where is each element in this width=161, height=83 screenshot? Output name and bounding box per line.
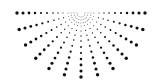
ray-dot xyxy=(98,12,99,13)
ray-dot xyxy=(65,21,66,22)
ray-dot xyxy=(80,40,82,42)
ray-dot xyxy=(69,32,70,33)
ray-dot xyxy=(15,11,18,14)
ray-dot xyxy=(80,64,83,67)
arc-dot xyxy=(83,22,84,23)
arc-dot xyxy=(71,15,72,16)
ray-dot xyxy=(108,62,111,65)
arc-dot xyxy=(79,16,80,17)
arc-dot xyxy=(78,19,79,20)
ray-dot xyxy=(80,46,82,48)
arc-dot xyxy=(77,13,78,14)
ray-dot xyxy=(60,24,61,25)
ray-dot xyxy=(40,35,43,38)
ray-dot xyxy=(130,40,133,43)
ray-dot xyxy=(141,28,144,31)
ray-dot xyxy=(47,67,50,70)
ray-dot xyxy=(68,25,69,26)
ray-dot xyxy=(23,26,26,29)
ray-dot xyxy=(52,40,54,42)
ray-dot xyxy=(87,24,88,25)
ray-dot xyxy=(60,32,62,34)
arc-dot xyxy=(86,17,87,18)
ray-dot xyxy=(125,38,128,41)
ray-dot xyxy=(90,51,92,53)
ray-dot xyxy=(137,11,140,14)
ray-dot xyxy=(120,12,122,14)
ray-dot xyxy=(80,30,81,31)
ray-dot xyxy=(94,36,96,38)
ray-dot xyxy=(112,44,115,47)
arc-dot xyxy=(90,17,91,18)
ray-dot xyxy=(66,36,68,38)
ray-dot xyxy=(92,19,93,20)
arc-dot xyxy=(85,18,86,19)
ray-dot xyxy=(126,12,129,15)
ray-dot xyxy=(35,38,38,41)
ray-dot xyxy=(115,32,117,34)
ray-dot xyxy=(132,12,135,15)
ray-dot xyxy=(84,25,85,26)
ray-dot xyxy=(69,19,70,20)
ray-dot xyxy=(68,16,69,17)
ray-dot xyxy=(94,67,97,70)
ray-dot xyxy=(143,11,146,14)
arc-dot xyxy=(76,18,77,19)
ray-dot xyxy=(120,35,123,38)
ray-dot xyxy=(94,13,95,14)
ray-dot xyxy=(114,12,116,14)
ray-dot xyxy=(74,24,75,25)
ray-dot xyxy=(71,22,72,23)
arc-dot xyxy=(83,16,84,17)
ray-dot xyxy=(92,56,95,59)
ray-dot xyxy=(109,29,111,31)
ray-dot xyxy=(38,52,41,55)
ray-dot xyxy=(96,73,99,76)
ray-dot xyxy=(68,13,69,14)
arc-dot xyxy=(90,15,91,16)
ray-dot xyxy=(46,12,48,14)
arc-dot xyxy=(72,17,73,18)
arc-dot xyxy=(85,13,86,14)
ray-dot xyxy=(70,51,72,53)
arc-dot xyxy=(81,20,82,21)
ray-dot xyxy=(74,35,75,36)
ray-dot xyxy=(79,69,82,72)
ray-dot xyxy=(113,21,115,23)
arc-dot xyxy=(87,20,88,21)
ray-dot xyxy=(34,57,37,60)
ray-dot xyxy=(116,48,119,51)
ray-dot xyxy=(86,35,87,36)
ray-dot xyxy=(56,36,58,38)
ray-dot xyxy=(125,57,128,60)
ray-dot xyxy=(64,29,65,30)
ray-dot xyxy=(96,21,97,22)
arc-dot xyxy=(76,22,77,23)
arc-dot xyxy=(83,19,84,20)
ray-dot xyxy=(97,29,98,30)
ray-dot xyxy=(34,12,37,15)
ray-dot xyxy=(93,16,94,17)
ray-dot xyxy=(29,25,32,28)
arc-dot xyxy=(88,13,89,14)
ray-dot xyxy=(100,24,101,25)
ray-dot xyxy=(52,12,54,14)
ray-dot xyxy=(45,32,47,34)
ray-dot xyxy=(63,17,64,18)
ray-dot xyxy=(40,12,42,14)
arc-dot xyxy=(73,19,74,20)
ray-dot xyxy=(47,21,49,23)
ray-dot xyxy=(135,26,138,29)
ray-dot xyxy=(104,36,106,38)
ray-dot xyxy=(29,40,32,43)
ray-dot xyxy=(90,22,91,23)
ray-dot xyxy=(103,12,104,13)
arc-dot xyxy=(74,20,75,21)
ray-dot xyxy=(79,75,82,78)
ray-dot xyxy=(28,12,31,15)
arc-dot xyxy=(78,22,79,23)
ray-dot xyxy=(130,25,133,28)
ray-dot xyxy=(81,26,82,27)
ray-dot xyxy=(68,56,71,59)
ray-dot xyxy=(76,30,77,31)
